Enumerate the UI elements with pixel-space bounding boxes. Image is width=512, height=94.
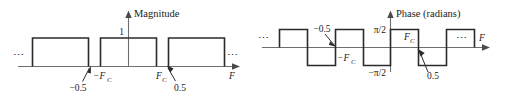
magnitude-leader-half [167,66,176,82]
phase-axis-title: Phase (radians) [396,8,461,20]
phase-label-minus-fc-main: −F [337,53,349,63]
magnitude-label-half: 0.5 [174,83,186,93]
phase-ellipsis-left: ⋯ [258,32,270,44]
magnitude-label-minus-fc-main: −F [93,71,105,81]
magnitude-pulse-right [169,38,225,67]
phase-label-half: 0.5 [427,71,439,81]
phase-label-fc-sub: C [410,37,415,45]
magnitude-plot: ⋯ ⋯ Magnitude 1 F −0.5 −F C F C 0.5 [13,8,240,93]
figure-svg: ⋯ ⋯ Magnitude 1 F −0.5 −F C F C 0.5 [0,0,512,94]
phase-label-fc: F C [403,32,415,45]
magnitude-label-fc-main: F [155,71,162,81]
phase-y-tick-pi-half: π/2 [374,25,386,35]
magnitude-ellipsis-right: ⋯ [227,49,239,61]
magnitude-label-fc: F C [155,71,167,84]
figure-root: ⋯ ⋯ Magnitude 1 F −0.5 −F C F C 0.5 [0,0,512,94]
phase-y-tick-neg-pi-half: −π/2 [368,68,386,78]
phase-label-minus-half: −0.5 [313,24,330,34]
phase-x-axis-label: F [478,33,485,43]
phase-x-axis [262,44,490,51]
phase-plot: ⋯ ⋯ Phase (radians) π/2 −π/2 F −0.5 −F C… [258,8,490,81]
magnitude-axis-title: Magnitude [134,8,180,19]
magnitude-y-tick-1: 1 [119,27,124,37]
magnitude-x-axis-label: F [228,71,235,81]
magnitude-label-minus-half: −0.5 [69,83,86,93]
phase-label-minus-fc-sub: C [351,58,356,66]
magnitude-label-minus-fc: −F C [93,71,112,84]
magnitude-label-minus-fc-sub: C [107,76,112,84]
phase-label-minus-fc: −F C [337,53,356,66]
magnitude-pulse-left [33,38,89,67]
magnitude-label-fc-sub: C [162,76,167,84]
phase-label-fc-main: F [403,32,410,42]
magnitude-leader-minus-half [83,66,91,82]
magnitude-ellipsis-left: ⋯ [13,49,25,61]
phase-ellipsis-right: ⋯ [456,32,468,44]
